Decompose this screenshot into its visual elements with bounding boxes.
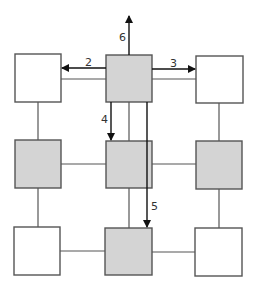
node-r2c1 — [105, 228, 152, 275]
node-r1c2 — [196, 141, 242, 189]
node-r0c0 — [15, 54, 61, 102]
arrow-4-label: 4 — [101, 113, 108, 126]
node-r2c2 — [195, 228, 242, 276]
arrow-2-label: 2 — [85, 56, 92, 69]
nodes — [14, 54, 243, 276]
arrow-3-label: 3 — [170, 57, 177, 70]
node-r1c0 — [15, 140, 61, 188]
arrow-5-label: 5 — [151, 200, 158, 213]
node-r1c1 — [106, 141, 152, 188]
arrow-6-label: 6 — [119, 31, 126, 44]
node-r0c1 — [106, 55, 152, 102]
network-diagram: 2 3 4 5 6 — [0, 0, 255, 290]
node-r0c2 — [196, 56, 243, 103]
node-r2c0 — [14, 227, 60, 275]
